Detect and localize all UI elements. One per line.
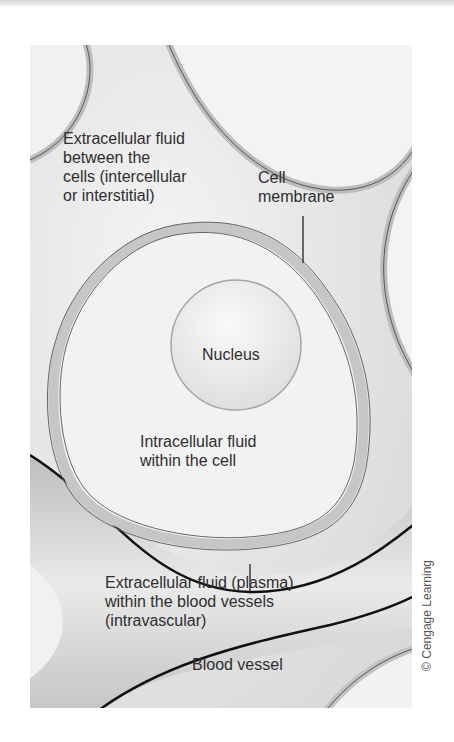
label-plasma: Extracellular fluid (plasma) within the … [105,573,294,630]
label-intracellular: Intracellular fluid within the cell [140,432,257,470]
label-extracellular-interstitial: Extracellular fluid between the cells (i… [63,129,187,205]
copyright-credit: © Cengage Learning [420,560,434,720]
label-blood-vessel: Blood vessel [192,655,283,674]
top-edge-strip [0,0,454,6]
label-cell-membrane: Cell membrane [258,168,334,206]
fluid-compartments-diagram: Extracellular fluid between the cells (i… [30,45,412,708]
label-nucleus: Nucleus [202,345,260,364]
